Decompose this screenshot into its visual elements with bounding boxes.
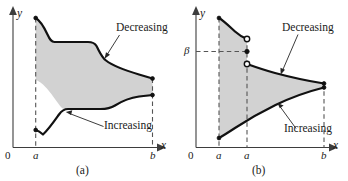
decreasing-leader-a xyxy=(107,35,120,56)
endpoint-lower-b-b xyxy=(322,86,326,90)
origin-label-b: 0 xyxy=(188,150,194,161)
y-axis-label-a: y xyxy=(17,8,22,20)
decreasing-leader-arrowhead-b xyxy=(280,68,285,75)
endpoint-upper-b-b xyxy=(322,82,326,86)
increasing-label-a: Increasing xyxy=(104,120,152,132)
y-axis-arrowhead-b xyxy=(192,6,200,15)
caption-a: (a) xyxy=(76,165,89,177)
x-tick-a-right: b xyxy=(150,150,156,161)
endpoint-lower-a-a xyxy=(34,128,38,132)
x-tick-a-left: a xyxy=(33,150,39,161)
increasing-label-b: Increasing xyxy=(284,123,332,135)
x-tick-b-right-b: b xyxy=(321,150,327,161)
open-circle-upper-b xyxy=(244,36,249,41)
panel-a: y x 0 a b Decreasing Increasing (a) xyxy=(0,0,174,181)
shaded-region-b xyxy=(219,18,324,138)
panel-b: y x 0 a a b β Decreasing Increasing (b) xyxy=(174,0,348,181)
filled-dot-beta-b xyxy=(245,49,249,53)
origin-label-a: 0 xyxy=(5,150,11,161)
x-tick-b-left-a: a xyxy=(216,150,222,161)
y-axis-arrowhead-a xyxy=(9,6,17,15)
figure-root: y x 0 a b Decreasing Increasing (a) xyxy=(0,0,348,181)
open-circle-lower-b xyxy=(244,61,249,66)
endpoint-upper-b-a xyxy=(151,77,155,81)
decreasing-label-a: Decreasing xyxy=(116,22,168,34)
x-axis-label-a: x xyxy=(161,140,166,152)
y-axis-label-b: y xyxy=(200,8,205,20)
endpoint-lower-b-a xyxy=(151,93,155,97)
endpoint-lower-left-a-b xyxy=(217,136,221,140)
caption-b: (b) xyxy=(252,165,265,177)
decreasing-leader-b xyxy=(283,35,299,71)
x-tick-b-interior-a: a xyxy=(244,150,250,161)
decreasing-leader-arrowhead-a xyxy=(105,52,111,59)
x-axis-label-b: x xyxy=(333,140,338,152)
y-tick-beta-b: β xyxy=(184,45,189,56)
endpoint-upper-a-a xyxy=(34,16,38,20)
decreasing-label-b: Decreasing xyxy=(282,22,334,34)
increasing-leader-a xyxy=(70,114,104,127)
endpoint-upper-left-a-b xyxy=(217,16,221,20)
